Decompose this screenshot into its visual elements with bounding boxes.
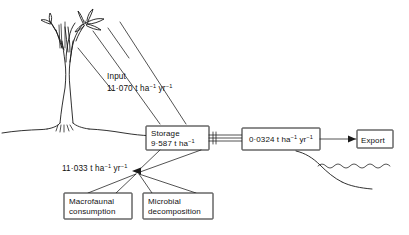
macrofaunal-line1: Macrofaunal (69, 197, 114, 206)
macrofaunal-line2: consumption (69, 207, 115, 216)
sapling-tree (41, 9, 104, 132)
export-flux-box: 0·0324 t ha−1 yr−1 (242, 128, 320, 150)
export-box: Export (357, 130, 393, 148)
loss-value-text: 11·033 t ha−1 yr−1 (62, 163, 127, 173)
water-wave-line (318, 164, 390, 168)
export-arrow (320, 136, 356, 143)
loss-flow-lines (88, 150, 201, 193)
export-box-label: Export (361, 136, 385, 145)
storage-box: Storage 9·587 t ha−1 (146, 126, 209, 150)
loss-label: 11·033 t ha−1 yr−1 (62, 163, 127, 173)
input-label: Input 11·070 t ha−1 yr−1 (107, 72, 172, 93)
diagram-canvas: Input 11·070 t ha−1 yr−1 Storage 9·587 t… (0, 0, 409, 235)
storage-to-flux-connector (209, 132, 242, 144)
microbial-line1: Microbial (148, 197, 181, 206)
input-label-text: Input (107, 72, 127, 81)
export-flux-value: 0·0324 t ha−1 yr−1 (249, 134, 313, 144)
macrofaunal-consumption-box: Macrofaunal consumption (64, 193, 132, 219)
input-value-text: 11·070 t ha−1 yr−1 (107, 83, 172, 93)
input-flow-lines (78, 22, 186, 124)
microbial-decomposition-box: Microbial decomposition (143, 193, 213, 219)
microbial-line2: decomposition (148, 207, 201, 216)
storage-box-title: Storage (151, 129, 180, 138)
